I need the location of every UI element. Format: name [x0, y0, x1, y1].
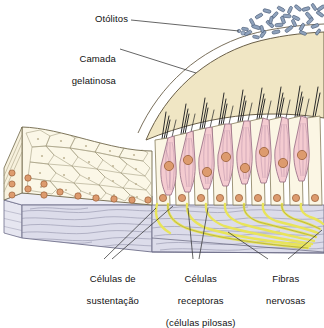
label-nerve-fibers-line1: Fibras [272, 273, 299, 284]
epithelium-cut-edge [4, 127, 22, 200]
label-gelatinous-layer-line2: gelatinosa [72, 75, 116, 86]
label-receptor-cells-line1: Células [185, 273, 217, 284]
label-gelatinous-layer-line1: Camada [79, 53, 116, 64]
label-nerve-fibers: Fibras nervosas [248, 262, 318, 306]
supporting-cell-nuclei [159, 194, 318, 201]
label-receptor-cells: Células receptoras (células pilosas) [152, 262, 244, 328]
label-receptor-cells-line3: (células pilosas) [166, 317, 236, 328]
label-gelatinous-layer: Camada gelatinosa [44, 42, 116, 86]
sensory-epithelium [155, 116, 322, 205]
label-receptor-cells-line2: receptoras [178, 295, 224, 306]
label-supporting-cells-line1: Células de [90, 273, 136, 284]
epithelium-surface [4, 127, 152, 205]
label-otoliths: Otólitos [52, 13, 128, 24]
label-supporting-cells-line2: sustentação [87, 295, 139, 306]
label-supporting-cells: Células de sustentação [64, 262, 156, 306]
label-nerve-fibers-line2: nervosas [266, 295, 305, 306]
